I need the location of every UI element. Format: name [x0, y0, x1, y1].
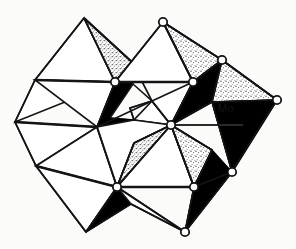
mo-atom-label: Mo	[218, 102, 233, 114]
oxygen-atom-icon[interactable]	[189, 78, 197, 86]
oxygen-atom-icon[interactable]	[159, 18, 167, 26]
structure-diagram: Mo	[0, 0, 296, 249]
oxygen-atom-icon[interactable]	[218, 56, 226, 64]
oxygen-atom-icon[interactable]	[190, 183, 198, 191]
oxygen-atom-icon[interactable]	[167, 121, 175, 129]
oxygen-atom-icon[interactable]	[113, 183, 121, 191]
oxygen-atom-icon[interactable]	[111, 78, 119, 86]
oxygen-atom-icon[interactable]	[181, 228, 189, 236]
oxygen-atom-icon[interactable]	[228, 168, 236, 176]
oxygen-atom-icon[interactable]	[273, 96, 281, 104]
crystal-structure-figure: Mo	[0, 0, 296, 249]
